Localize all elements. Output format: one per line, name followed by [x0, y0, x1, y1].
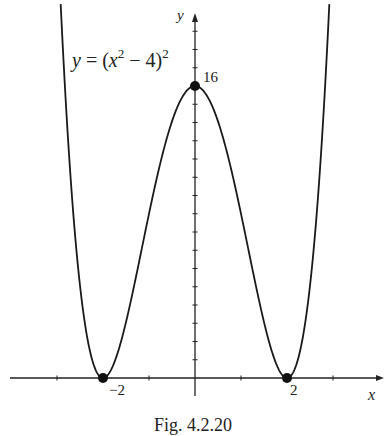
label-16: 16 — [203, 69, 219, 85]
x-axis-label: x — [367, 386, 375, 403]
point-marker — [190, 81, 200, 91]
point-marker — [98, 373, 108, 383]
function-plot: y x −2 2 16 y = (x2 − 4)2 Fig. 4.2.20 — [0, 0, 387, 436]
label-neg2: −2 — [109, 382, 125, 398]
figure-caption: Fig. 4.2.20 — [154, 415, 232, 435]
label-2: 2 — [290, 382, 298, 398]
y-axis-label: y — [175, 7, 184, 23]
x-axis-arrow-icon — [376, 375, 384, 381]
y-axis-arrow-icon — [192, 13, 198, 22]
equation-label: y = (x2 − 4)2 — [70, 46, 169, 72]
